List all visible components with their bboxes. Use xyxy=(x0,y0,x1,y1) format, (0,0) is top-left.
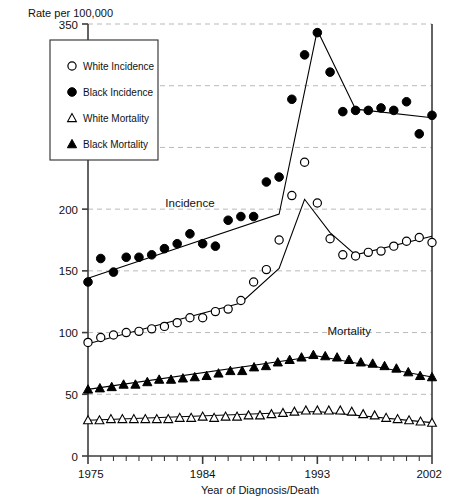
data-point xyxy=(109,331,117,339)
data-point xyxy=(160,322,168,330)
data-point xyxy=(173,319,181,327)
filled-circle-icon xyxy=(68,88,77,97)
data-point xyxy=(364,248,372,256)
x-axis-title: Year of Diagnosis/Death xyxy=(201,484,319,496)
data-point xyxy=(262,266,270,274)
data-point xyxy=(364,106,373,115)
y-tick-label-200: 200 xyxy=(59,204,78,216)
data-point xyxy=(262,178,271,187)
data-point xyxy=(122,253,131,262)
data-point xyxy=(186,314,194,322)
legend-item-label: Black Incidence xyxy=(83,87,153,98)
data-point xyxy=(173,239,182,248)
data-point xyxy=(351,106,360,115)
data-point xyxy=(351,252,359,260)
data-point xyxy=(97,333,105,341)
data-point xyxy=(389,106,398,115)
data-point xyxy=(428,238,436,246)
data-point xyxy=(249,212,258,221)
x-tick-label-1984: 1984 xyxy=(190,468,216,480)
x-tick-label-1993: 1993 xyxy=(305,468,331,480)
data-point xyxy=(135,253,144,262)
data-point xyxy=(109,268,118,277)
data-point xyxy=(288,191,296,199)
data-point xyxy=(147,251,156,260)
data-point xyxy=(198,239,207,248)
data-point xyxy=(275,236,283,244)
y-tick-label-100: 100 xyxy=(59,327,78,339)
open-circle-icon xyxy=(68,62,76,70)
chart-figure: Rate per 100,000 050100150200250300350 1… xyxy=(0,0,465,503)
data-point xyxy=(84,278,93,287)
data-point xyxy=(300,158,308,166)
data-point xyxy=(211,307,219,315)
y-tick-label-150: 150 xyxy=(59,265,78,277)
data-point xyxy=(224,216,233,225)
data-point xyxy=(313,28,322,37)
data-point xyxy=(326,235,334,243)
data-point xyxy=(377,104,386,113)
data-point xyxy=(288,95,297,104)
annotation-mortality: Mortality xyxy=(327,325,371,337)
annotation-incidence: Incidence xyxy=(165,197,214,209)
data-point xyxy=(415,130,424,139)
data-point xyxy=(224,305,232,313)
data-point xyxy=(313,199,321,207)
data-point xyxy=(237,212,246,221)
data-point xyxy=(186,230,195,239)
data-point xyxy=(96,254,105,263)
data-point xyxy=(135,327,143,335)
legend-item-label: Black Mortality xyxy=(83,139,148,150)
x-tick-label-2002: 2002 xyxy=(416,468,442,480)
data-point xyxy=(377,247,385,255)
data-point xyxy=(402,237,410,245)
data-point xyxy=(326,68,335,77)
data-point xyxy=(402,97,411,106)
y-tick-label-0: 0 xyxy=(72,451,78,463)
data-point xyxy=(415,233,423,241)
data-point xyxy=(237,296,245,304)
y-tick-label-50: 50 xyxy=(65,389,78,401)
x-tick-label-1975: 1975 xyxy=(78,468,104,480)
data-point xyxy=(275,173,284,182)
data-point xyxy=(390,242,398,250)
data-point xyxy=(211,242,220,251)
data-point xyxy=(300,51,309,60)
y-axis-title: Rate per 100,000 xyxy=(28,7,113,19)
legend-item-label: White Mortality xyxy=(83,113,149,124)
data-point xyxy=(428,111,437,120)
data-point xyxy=(84,338,92,346)
y-tick-label-350: 350 xyxy=(59,19,78,31)
data-point xyxy=(160,244,169,253)
data-point xyxy=(199,314,207,322)
data-point xyxy=(339,251,347,259)
rate-per-100000-line-chart: Rate per 100,000 050100150200250300350 1… xyxy=(0,0,465,503)
data-point xyxy=(122,328,130,336)
data-point xyxy=(339,107,348,116)
legend: White IncidenceBlack IncidenceWhite Mort… xyxy=(50,40,158,160)
data-point xyxy=(148,325,156,333)
data-point xyxy=(250,278,258,286)
legend-item-label: White Incidence xyxy=(83,61,155,72)
